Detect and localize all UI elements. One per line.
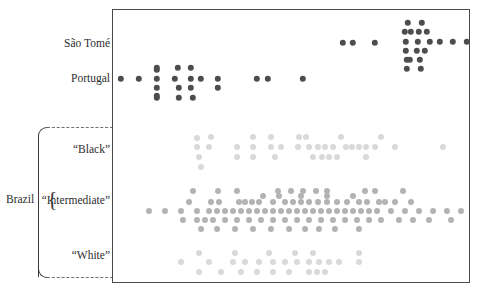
data-point [246,217,252,223]
data-point [338,134,344,140]
data-point [437,39,443,45]
data-point [198,76,204,82]
figure-root: São Tomé Portugal “Black” “Intermediate”… [0,0,481,294]
data-point [270,217,276,223]
data-point [356,259,362,265]
data-point [422,48,428,54]
plot-frame [112,9,470,283]
data-point [448,217,454,223]
data-point [162,208,168,214]
data-point [232,250,238,256]
data-point [430,208,436,214]
data-point [356,250,362,256]
data-point [424,29,430,35]
data-point [194,217,200,223]
data-point [218,269,224,275]
data-point [186,199,192,205]
data-point [310,154,316,160]
data-point [405,20,411,26]
data-point [208,199,214,205]
data-point [216,199,222,205]
data-point [330,217,336,223]
data-point [175,65,181,71]
data-point [180,217,186,223]
data-point [254,76,260,82]
data-point [288,188,294,194]
data-point [306,199,312,205]
data-point [232,226,238,232]
data-point [118,76,124,82]
data-point [296,134,302,140]
data-point [194,208,200,214]
data-point [196,154,202,160]
data-point [256,259,262,265]
data-point [176,85,182,91]
data-point [392,199,398,205]
data-point [334,199,340,205]
data-point [270,208,276,214]
data-point [318,217,324,223]
data-point [392,144,398,150]
data-point [322,269,328,275]
data-point [404,66,410,72]
data-point [415,39,421,45]
data-point [316,259,322,265]
data-point [190,95,196,101]
data-point [408,199,414,205]
data-point [298,193,304,199]
data-point [188,65,194,71]
data-point [282,199,288,205]
data-point [450,39,456,45]
data-point [294,217,300,223]
data-point [282,217,288,223]
data-point [356,199,362,205]
data-point [234,154,240,160]
data-point [324,199,330,205]
data-point [222,217,228,223]
data-point [222,208,228,214]
data-point [362,188,368,194]
data-point [330,144,336,150]
data-point [326,154,332,160]
data-point [270,259,276,265]
data-point [268,144,274,150]
bracket-corner-top [38,127,48,137]
data-point [408,29,414,35]
data-point [154,67,160,73]
group-label-brazil: Brazil [6,193,34,205]
data-point [260,193,266,199]
data-point [234,217,240,223]
data-point [230,208,236,214]
data-point [366,217,372,223]
data-point [349,144,355,150]
data-point [230,259,236,265]
data-point [306,217,312,223]
data-point [407,57,413,63]
data-point [464,39,469,45]
data-point [250,226,256,232]
category-label-sao-tome: São Tomé [6,37,110,49]
data-point [372,40,378,46]
data-point [332,226,338,232]
data-point [378,217,384,223]
bracket-dashed-bottom [47,277,113,278]
data-point [208,134,214,140]
data-point [206,259,212,265]
data-point [290,199,296,205]
data-point [254,208,260,214]
data-point [440,144,446,150]
data-point [294,208,300,214]
data-point [194,135,200,141]
data-point [250,154,256,160]
data-point [272,154,278,160]
data-point [306,269,312,275]
data-point [242,259,248,265]
data-point [196,250,202,256]
data-point [358,208,364,214]
data-point [268,134,274,140]
data-point [326,208,332,214]
data-point [334,208,340,214]
data-point [410,217,416,223]
data-point [313,188,319,194]
data-point [256,199,262,205]
